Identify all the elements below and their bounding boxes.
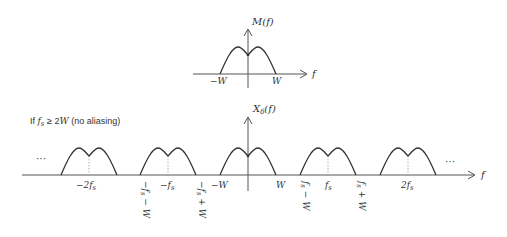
lobe-minus-fs: [140, 148, 196, 175]
tick-minus-fs: −fs: [160, 180, 175, 192]
tick-fs-minus-w: fs − W: [299, 180, 311, 211]
lobe-2fs: [380, 148, 436, 175]
bottom-y-label: Xδ(f): [252, 103, 276, 116]
top-tick-neg-w: −W: [210, 76, 228, 86]
ellipsis-right: ···: [445, 156, 455, 167]
tick-neg-w: −W: [211, 180, 229, 190]
sampling-spectrum-diagram: M(f) f −W W If fs ≥ 2W (no aliasing) ···…: [0, 0, 507, 237]
tick-minus-2fs: −2fs: [76, 180, 97, 192]
no-aliasing-condition: If fs ≥ 2W (no aliasing): [30, 116, 120, 128]
top-tick-pos-w: W: [272, 76, 282, 86]
tick-2fs: 2fs: [400, 180, 414, 192]
tick-fs: fs: [324, 180, 332, 192]
top-x-label: f: [311, 68, 318, 79]
bottom-x-label: f: [480, 169, 487, 180]
tick-minus-fs-minus-w: −fs − W: [139, 181, 151, 219]
message-spectrum-plot: M(f) f −W W: [193, 16, 318, 88]
lobe-minus-2fs: [61, 148, 117, 175]
tick-pos-w: W: [276, 180, 286, 190]
tick-minus-fs-plus-w: −fs + W: [195, 181, 207, 219]
lobe-fs: [300, 148, 356, 175]
top-y-label: M(f): [251, 16, 274, 27]
tick-fs-plus-w: fs + W: [355, 180, 367, 211]
ellipsis-left: ···: [36, 153, 46, 164]
